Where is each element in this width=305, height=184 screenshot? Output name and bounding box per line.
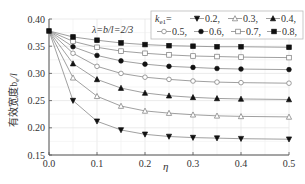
svg-text:0.5,: 0.5,	[172, 26, 187, 37]
square-open-marker-icon	[95, 45, 100, 50]
circle-open-marker-icon	[215, 80, 220, 85]
square-open-marker-icon	[287, 55, 292, 60]
circle-filled-marker-icon	[239, 67, 244, 72]
y-tick-label: 0.35	[28, 41, 46, 52]
chart: 0.00.10.20.30.40.50.150.200.250.300.350.…	[0, 0, 305, 184]
circle-open-marker-icon	[162, 29, 167, 34]
triangle-up-open-marker-icon	[70, 75, 75, 80]
circle-open-marker-icon	[95, 64, 100, 69]
y-axis-label: 有效宽度be/l	[7, 73, 21, 127]
square-filled-marker-icon	[119, 41, 124, 46]
svg-text:有效宽度be/l: 有效宽度be/l	[7, 73, 21, 127]
square-open-marker-icon	[71, 39, 76, 44]
circle-filled-marker-icon	[119, 59, 124, 64]
svg-text:0.3,: 0.3,	[243, 13, 258, 24]
circle-open-marker-icon	[71, 51, 76, 56]
svg-text:0.4,: 0.4,	[281, 13, 296, 24]
circle-filled-marker-icon	[95, 53, 100, 58]
x-tick-label: 0.3	[187, 158, 200, 169]
square-open-marker-icon	[167, 53, 172, 58]
svg-text:0.8,: 0.8,	[282, 26, 297, 37]
annotation-lambda: λ=b/l=2/3	[91, 24, 133, 35]
square-filled-marker-icon	[71, 35, 76, 40]
circle-open-marker-icon	[239, 80, 244, 85]
square-open-marker-icon	[236, 29, 241, 34]
square-open-marker-icon	[191, 54, 196, 59]
y-tick-label: 0.30	[28, 68, 46, 79]
triangle-up-open-marker-icon	[94, 93, 99, 98]
square-open-marker-icon	[215, 54, 220, 59]
y-tick-label: 0.25	[28, 95, 46, 106]
x-tick-label: 0.5	[283, 158, 296, 169]
square-open-marker-icon	[119, 49, 124, 54]
square-open-marker-icon	[143, 51, 148, 56]
circle-open-marker-icon	[119, 71, 124, 76]
x-axis-label: η	[163, 160, 168, 172]
y-tick-label: 0.15	[28, 150, 46, 161]
square-filled-marker-icon	[215, 44, 220, 49]
square-filled-marker-icon	[143, 42, 148, 47]
circle-filled-marker-icon	[215, 66, 220, 71]
square-filled-marker-icon	[47, 29, 52, 34]
circle-filled-marker-icon	[71, 44, 76, 49]
circle-filled-marker-icon	[287, 67, 292, 72]
square-filled-marker-icon	[239, 44, 244, 49]
square-filled-marker-icon	[167, 43, 172, 48]
circle-open-marker-icon	[287, 81, 292, 86]
y-tick-label: 0.40	[28, 14, 46, 25]
circle-filled-marker-icon	[191, 65, 196, 70]
square-filled-marker-icon	[95, 38, 100, 43]
square-open-marker-icon	[239, 55, 244, 60]
svg-text:0.6,: 0.6,	[209, 26, 224, 37]
legend: ke1= 0.2,0.3,0.4,0.5,0.6,0.7,0.8,	[151, 11, 303, 39]
y-tick-label: 0.20	[28, 122, 46, 133]
square-filled-marker-icon	[191, 44, 196, 49]
svg-text:0.2,: 0.2,	[205, 13, 220, 24]
circle-open-marker-icon	[167, 77, 172, 82]
triangle-up-open-marker-icon	[118, 103, 123, 108]
x-tick-label: 0.1	[91, 158, 104, 169]
x-tick-label: 0.4	[235, 158, 248, 169]
triangle-up-filled-marker-icon	[94, 77, 99, 82]
square-filled-marker-icon	[287, 45, 292, 50]
square-filled-marker-icon	[272, 29, 277, 34]
x-tick-label: 0.2	[139, 158, 152, 169]
circle-open-marker-icon	[191, 79, 196, 84]
circle-filled-marker-icon	[143, 62, 148, 67]
circle-filled-marker-icon	[199, 29, 204, 34]
svg-text:0.7,: 0.7,	[246, 26, 261, 37]
circle-open-marker-icon	[143, 75, 148, 80]
circle-filled-marker-icon	[167, 64, 172, 69]
